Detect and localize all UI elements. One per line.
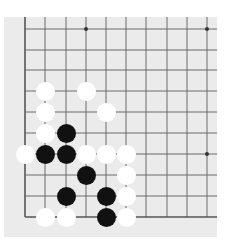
black-stone[interactable]	[77, 166, 96, 185]
star-point	[205, 152, 209, 156]
white-stone[interactable]	[117, 187, 136, 206]
white-stone[interactable]	[77, 145, 96, 164]
white-stone[interactable]	[36, 82, 55, 101]
white-stone[interactable]	[36, 124, 55, 143]
white-stone[interactable]	[57, 208, 76, 227]
white-stone[interactable]	[77, 82, 96, 101]
white-stone[interactable]	[97, 103, 116, 122]
black-stone[interactable]	[57, 145, 76, 164]
black-stone[interactable]	[57, 187, 76, 206]
star-point	[205, 27, 209, 31]
white-stone[interactable]	[36, 208, 55, 227]
black-stone[interactable]	[97, 187, 116, 206]
white-stone[interactable]	[97, 145, 116, 164]
white-stone[interactable]	[16, 145, 35, 164]
white-stone[interactable]	[117, 166, 136, 185]
black-stone[interactable]	[57, 124, 76, 143]
go-board[interactable]	[4, 17, 217, 237]
star-point	[84, 27, 88, 31]
white-stone[interactable]	[117, 208, 136, 227]
black-stone[interactable]	[36, 145, 55, 164]
white-stone[interactable]	[117, 145, 136, 164]
black-stone[interactable]	[97, 208, 116, 227]
white-stone[interactable]	[36, 103, 55, 122]
